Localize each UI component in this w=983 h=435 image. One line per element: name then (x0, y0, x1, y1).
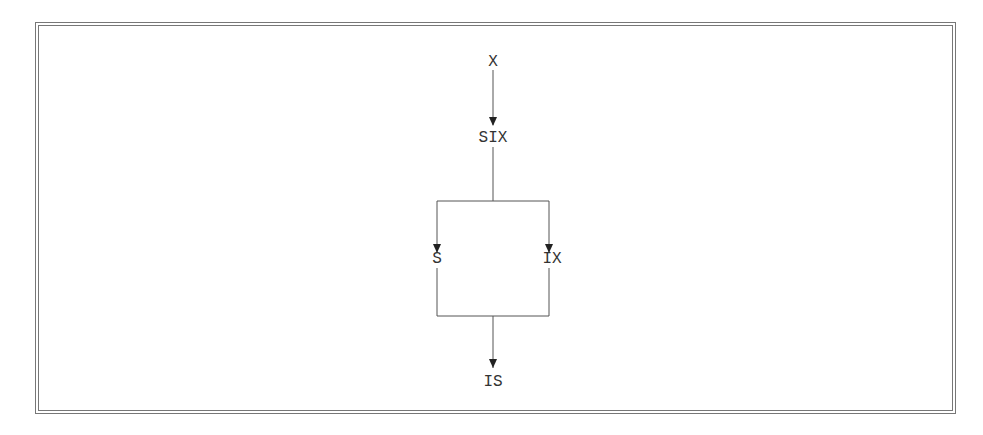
node-x: X (488, 53, 498, 71)
node-ix: IX (542, 250, 562, 268)
arrowhead-icon (489, 117, 497, 126)
edge-merge (437, 268, 549, 368)
node-s: S (432, 250, 442, 268)
node-is: IS (483, 373, 502, 391)
edge-six-split (433, 147, 553, 253)
arrowhead-icon (489, 359, 497, 368)
flowchart-canvas: X SIX S IX IS (0, 0, 983, 435)
node-six: SIX (479, 129, 508, 147)
edge-x-to-six (489, 70, 497, 126)
